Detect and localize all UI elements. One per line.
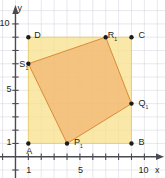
x-axis-label: x bbox=[155, 166, 160, 175]
point-label-q1-subscript: 1 bbox=[146, 103, 149, 109]
y-tick-label-5: 5 bbox=[6, 85, 11, 94]
vertex-point-d bbox=[26, 35, 30, 39]
x-tick-label-1: 1 bbox=[26, 166, 31, 175]
x-tick-label-10: 10 bbox=[138, 166, 148, 175]
y-tick-label-10: 10 bbox=[0, 19, 9, 28]
coordinate-plane-figure: ABCDP1Q1R1S115101510xy bbox=[0, 0, 165, 178]
y-axis-label: y bbox=[17, 4, 22, 13]
vertex-point-q1 bbox=[129, 101, 133, 105]
y-tick-label-1: 1 bbox=[6, 138, 11, 147]
point-label-b: B bbox=[138, 138, 144, 147]
geometry-svg bbox=[0, 0, 165, 178]
vertex-point-c bbox=[129, 35, 133, 39]
vertex-point-p1 bbox=[65, 141, 69, 145]
x-axis-arrow-icon bbox=[156, 154, 164, 160]
vertex-point-b bbox=[129, 141, 133, 145]
point-label-s1-subscript: 1 bbox=[25, 65, 28, 71]
point-label-d: D bbox=[34, 31, 41, 40]
x-tick-label-5: 5 bbox=[78, 166, 83, 175]
point-label-q1: Q1 bbox=[138, 99, 148, 110]
vertex-point-a bbox=[26, 141, 30, 145]
point-label-s1: S1 bbox=[19, 60, 28, 71]
point-label-r1: R1 bbox=[108, 31, 117, 42]
point-label-p1: P1 bbox=[74, 138, 83, 149]
point-label-c: C bbox=[138, 31, 145, 40]
point-label-a: A bbox=[26, 147, 32, 156]
point-label-p1-subscript: 1 bbox=[80, 143, 83, 149]
point-label-r1-subscript: 1 bbox=[114, 36, 117, 42]
